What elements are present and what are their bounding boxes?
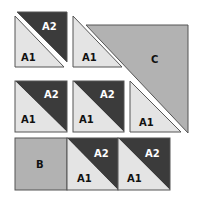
label-r2c3-a1: A1 xyxy=(139,117,154,128)
quilt-diagram: A2 A1 A1 C A2 A1 A2 A1 A1 B A2 xyxy=(0,0,199,207)
label-r1c1-a1: A1 xyxy=(21,52,36,63)
label-r3c3-a1: A1 xyxy=(127,173,142,184)
label-b: B xyxy=(36,159,44,170)
label-r3c3-a2: A2 xyxy=(145,148,160,159)
label-r2c2-a2: A2 xyxy=(100,89,115,100)
label-r1c2-a1: A1 xyxy=(82,52,97,63)
label-r3c2-a1: A1 xyxy=(77,173,92,184)
label-r1c1-a2: A2 xyxy=(42,21,57,32)
label-r3c2-a2: A2 xyxy=(94,148,109,159)
block-r2c1: A2 A1 xyxy=(15,81,67,132)
block-r3: B A2 A1 A2 A1 xyxy=(15,138,170,190)
label-r2c1-a1: A1 xyxy=(21,114,36,125)
label-r2c1-a2: A2 xyxy=(44,89,59,100)
label-r2c2-a1: A1 xyxy=(79,114,94,125)
block-r1c1: A2 A1 xyxy=(15,12,67,67)
block-r2c2: A2 A1 xyxy=(73,81,124,132)
label-c: C xyxy=(151,54,158,65)
